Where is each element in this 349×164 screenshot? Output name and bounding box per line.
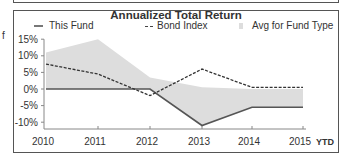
plot-area: 15%10%5%0%-5%-10%20102011201220132014201… [0, 0, 349, 164]
y-tick-label: 5% [24, 67, 39, 78]
x-tick-label: 2011 [84, 136, 106, 147]
y-tick-label: -5% [20, 100, 38, 111]
y-tick-label: 10% [18, 50, 38, 61]
y-tick-label: -10% [15, 117, 38, 128]
ytd-label: YTD [316, 137, 335, 147]
avg-fund-type-area [46, 39, 303, 125]
x-tick-label: 2013 [188, 136, 211, 147]
x-tick-label: 2010 [32, 136, 55, 147]
x-tick-label: 2015 [289, 136, 312, 147]
x-tick-label: 2014 [238, 136, 261, 147]
y-tick-label: 0% [24, 84, 39, 95]
x-tick-label: 2012 [136, 136, 159, 147]
y-tick-label: 15% [18, 34, 38, 45]
